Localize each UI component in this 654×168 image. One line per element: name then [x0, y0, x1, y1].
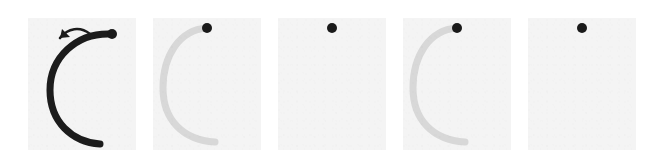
stroke-arc-faint: [413, 28, 465, 142]
start-point-dot: [577, 23, 587, 33]
start-point-dot: [107, 29, 117, 39]
panel-3-canvas: [278, 18, 386, 150]
panel-4-canvas: [403, 18, 511, 150]
stroke-sequence-figure: [0, 0, 654, 168]
start-point-dot: [327, 23, 337, 33]
panel-5-canvas: [528, 18, 636, 150]
stroke-panel-3: [278, 18, 386, 150]
panel-1-canvas: [28, 18, 136, 150]
start-point-dot: [202, 23, 212, 33]
stroke-panel-2: [153, 18, 261, 150]
stroke-panel-4: [403, 18, 511, 150]
panel-2-canvas: [153, 18, 261, 150]
stroke-panel-1: [28, 18, 136, 150]
stroke-panel-5: [528, 18, 636, 150]
start-point-dot: [452, 23, 462, 33]
stroke-arc-faint: [163, 28, 215, 142]
stroke-arc-dark: [50, 34, 112, 144]
